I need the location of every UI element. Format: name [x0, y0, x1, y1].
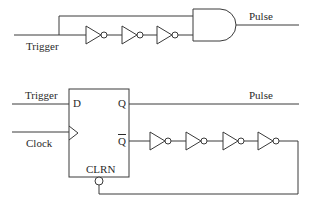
d-pin-label: D [73, 98, 81, 109]
clrn-pin-label: CLRN [86, 164, 115, 175]
bottom-inverter-2 [186, 132, 207, 150]
qbar-pin-label: Q [118, 136, 126, 147]
q-pin-label: Q [118, 98, 126, 109]
schematic-svg [0, 0, 310, 212]
bottom-inverter-3 [223, 132, 244, 150]
top-inverter-3 [157, 26, 178, 44]
clrn-bubble [95, 177, 103, 185]
bottom-pulse-label: Pulse [249, 90, 273, 101]
bottom-circuit [12, 89, 299, 194]
top-pulse-label: Pulse [249, 11, 273, 22]
clock-label: Clock [26, 138, 52, 149]
bottom-trigger-label: Trigger [25, 90, 58, 101]
top-inverter-2 [122, 26, 143, 44]
bottom-inverter-4 [258, 132, 279, 150]
and-gate [193, 9, 236, 41]
bottom-inverter-1 [150, 132, 171, 150]
top-trigger-label: Trigger [26, 41, 59, 52]
top-inverter-1 [86, 26, 107, 44]
circuit-diagram: Trigger Pulse Trigger Clock D Q Q CLRN P… [0, 0, 310, 212]
